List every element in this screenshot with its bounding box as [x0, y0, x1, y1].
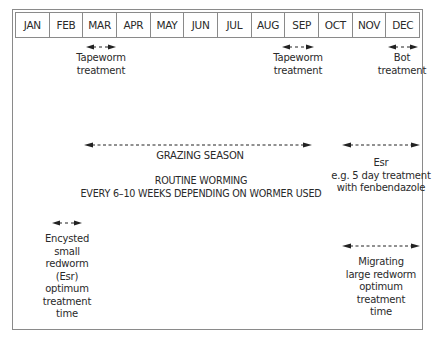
- month-sep: SEP: [285, 13, 319, 37]
- migrating-redworm-arrow-icon: [342, 242, 420, 250]
- esr-autumn-arrow-icon: [342, 141, 420, 149]
- tapeworm-spring-arrow-icon: [86, 43, 116, 51]
- month-mar: MAR: [83, 13, 117, 37]
- month-apr: APR: [117, 13, 151, 37]
- month-dec: DEC: [386, 13, 419, 37]
- grazing-season-arrow-icon: [84, 141, 312, 149]
- tapeworm-spring-label: Tapeworm treatment: [66, 52, 136, 77]
- month-aug: AUG: [252, 13, 286, 37]
- month-nov: NOV: [353, 13, 387, 37]
- month-oct: OCT: [319, 13, 353, 37]
- esr-winter-arrow-icon: [52, 219, 82, 227]
- esr-autumn-label: Esr e.g. 5 day treatment with fenbendazo…: [330, 157, 432, 195]
- grazing-season-label: GRAZING SEASON: [120, 150, 280, 163]
- tapeworm-autumn-arrow-icon: [282, 43, 314, 51]
- bot-label: Bot treatment: [376, 52, 428, 77]
- month-jun: JUN: [184, 13, 218, 37]
- month-feb: FEB: [50, 13, 84, 37]
- esr-winter-label: Encysted small redworm (Esr) optimum tre…: [32, 233, 102, 321]
- month-jan: JAN: [16, 13, 50, 37]
- month-header-row: JAN FEB MAR APR MAY JUN JUL AUG SEP OCT …: [15, 12, 420, 38]
- routine-worming-label: ROUTINE WORMING EVERY 6–10 WEEKS DEPENDI…: [62, 175, 340, 200]
- migrating-redworm-label: Migrating large redworm optimum treatmen…: [336, 256, 426, 319]
- month-jul: JUL: [218, 13, 252, 37]
- month-may: MAY: [151, 13, 185, 37]
- tapeworm-autumn-label: Tapeworm treatment: [263, 52, 333, 77]
- bot-arrow-icon: [388, 43, 418, 51]
